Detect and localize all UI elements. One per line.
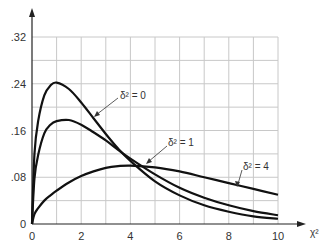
x-tick-label: 6 <box>177 230 183 242</box>
annotation-label-0: δ² = 0 <box>120 90 146 101</box>
x-tick-label: 2 <box>78 230 84 242</box>
grid-lines <box>32 37 278 224</box>
annotation-label-1: δ² = 1 <box>168 137 194 148</box>
x-axis-arrow-icon <box>297 221 306 227</box>
x-tick-label: 4 <box>127 230 133 242</box>
chart: χ² 02468100.08.16.24.32 δ² = 0 δ² = 1 δ²… <box>0 0 333 248</box>
x-tick-label: 8 <box>226 230 232 242</box>
y-tick-label: 0 <box>20 218 26 230</box>
annotation-leader-0 <box>96 98 118 115</box>
x-tick-label: 0 <box>29 230 35 242</box>
axes: χ² <box>29 8 319 238</box>
y-tick-label: .24 <box>11 78 26 90</box>
y-tick-label: .16 <box>11 125 26 137</box>
x-tick-label: 10 <box>272 230 284 242</box>
x-axis-label: χ² <box>310 227 319 238</box>
y-axis-arrow-icon <box>29 8 35 17</box>
y-tick-label: .32 <box>11 31 26 43</box>
tick-labels: 02468100.08.16.24.32 <box>11 31 284 242</box>
annotation-label-2: δ² = 4 <box>243 161 269 172</box>
y-tick-label: .08 <box>11 171 26 183</box>
annotation-arrow-icon-0 <box>94 111 100 117</box>
